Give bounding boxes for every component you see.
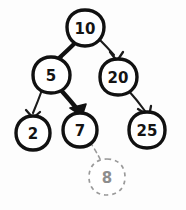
node-25[interactable]: 25: [129, 112, 165, 148]
node-5[interactable]: 5: [33, 57, 70, 93]
node-20[interactable]: 20: [100, 59, 137, 95]
node-8-label: 8: [102, 169, 112, 187]
node-2-label: 2: [28, 125, 38, 143]
node-7[interactable]: 7: [63, 113, 97, 147]
node-20-label: 20: [108, 69, 129, 87]
node-10-label: 10: [75, 20, 96, 38]
node-2[interactable]: 2: [16, 116, 50, 150]
node-8-ghost[interactable]: 8: [89, 159, 125, 195]
edge-5-to-2: [26, 90, 42, 118]
edge-5-to-2-line: [33, 90, 42, 113]
binary-search-tree-diagram: 10 5 20 2 7: [0, 0, 186, 210]
node-10[interactable]: 10: [67, 10, 104, 46]
diagram-canvas: 10 5 20 2 7: [0, 0, 186, 210]
node-7-label: 7: [75, 122, 85, 140]
edge-10-to-5-line: [58, 43, 75, 59]
node-25-label: 25: [137, 122, 158, 140]
node-5-label: 5: [46, 67, 56, 85]
